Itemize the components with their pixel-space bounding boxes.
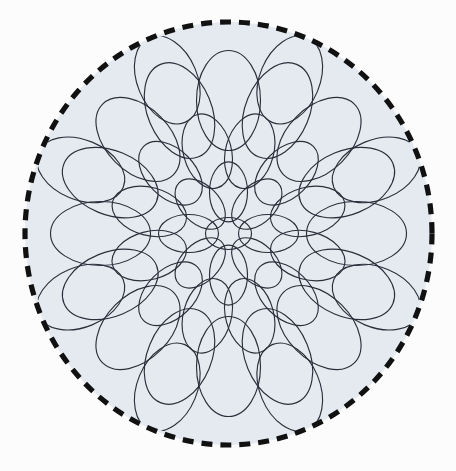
geometric-diagram-canvas: Radial packing of ellipses in a dashed c… (0, 0, 456, 471)
figure-root: Radial packing of ellipses in a dashed c… (0, 0, 456, 471)
disk-fill (25, 22, 432, 445)
